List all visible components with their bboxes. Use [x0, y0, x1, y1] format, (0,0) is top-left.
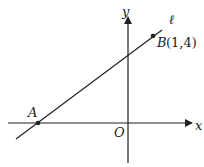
point-b [151, 34, 156, 39]
point-b-label: B [156, 35, 167, 50]
line-label: ℓ [169, 12, 175, 27]
point-b-coords: (1,4) [166, 35, 197, 50]
point-a [36, 121, 41, 126]
x-axis-label: x [195, 118, 203, 133]
origin-label: O [114, 125, 125, 140]
y-axis-label: y [121, 4, 130, 19]
point-a-label: A [27, 105, 37, 120]
coordinate-diagram: y x O ℓ A B (1,4) [0, 0, 204, 167]
